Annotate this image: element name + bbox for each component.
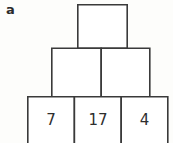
pyramid-row-apex bbox=[78, 5, 127, 48]
figure-panel: a 7 17 4 bbox=[0, 0, 173, 143]
pyramid-cell-r1c0[interactable] bbox=[52, 48, 101, 97]
pyramid-row-base: 7 17 4 bbox=[28, 97, 168, 143]
pyramid-cell-value-r2c1: 17 bbox=[88, 111, 107, 129]
pyramid-cell-r0c0[interactable] bbox=[78, 5, 127, 48]
pyramid-row-middle bbox=[52, 48, 150, 97]
pyramid-cell-value-r2c0: 7 bbox=[46, 111, 56, 129]
number-pyramid-diagram: 7 17 4 bbox=[0, 0, 173, 143]
pyramid-cell-value-r2c2: 4 bbox=[140, 111, 150, 129]
pyramid-cell-r1c1[interactable] bbox=[101, 48, 150, 97]
